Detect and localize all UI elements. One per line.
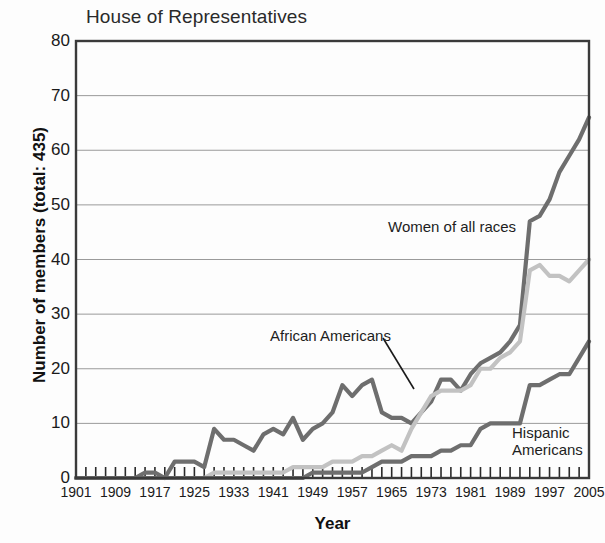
chart-canvas: House of Representatives Number of membe… bbox=[0, 0, 605, 543]
annotation-women-of-all-races: Women of all races bbox=[388, 218, 516, 235]
plot-area bbox=[0, 0, 605, 543]
annotation-hispanic-americans: Hispanic Americans bbox=[512, 424, 583, 459]
annotation-hispanic-line2: Americans bbox=[512, 441, 583, 458]
annotation-hispanic-line1: Hispanic bbox=[512, 424, 583, 441]
annotation-african-americans: African Americans bbox=[270, 327, 391, 344]
